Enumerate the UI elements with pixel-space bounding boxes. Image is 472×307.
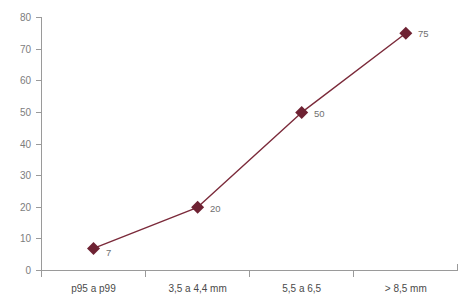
y-tick-label-60: 60: [20, 75, 32, 86]
y-tick-label-0: 0: [25, 265, 31, 276]
x-category-label-2: 5,5 a 6,5: [282, 283, 321, 294]
y-axis: 80 70 60 50 40 30 20 10 0: [20, 12, 42, 276]
data-point-label-3: 75: [418, 28, 429, 39]
y-tick-label-30: 30: [20, 170, 32, 181]
y-tick-label-70: 70: [20, 44, 32, 55]
y-tick-label-40: 40: [20, 139, 32, 150]
data-point-label-0: 7: [106, 247, 111, 258]
y-tick-label-50: 50: [20, 107, 32, 118]
data-series: 7 20 50 75: [87, 27, 429, 258]
y-tick-label-10: 10: [20, 233, 32, 244]
x-category-label-1: 3,5 a 4,4 mm: [168, 283, 226, 294]
chart-canvas: 80 70 60 50 40 30 20 10 0 p95 a p99 3,5 …: [0, 0, 472, 307]
series-line-path: [94, 33, 406, 248]
x-axis: p95 a p99 3,5 a 4,4 mm 5,5 a 6,5 > 8,5 m…: [42, 264, 459, 294]
x-category-label-0: p95 a p99: [71, 283, 116, 294]
data-point-label-2: 50: [314, 108, 325, 119]
data-point-marker-3[interactable]: [399, 27, 412, 40]
x-category-label-3: > 8,5 mm: [385, 283, 427, 294]
data-point-label-1: 20: [210, 203, 221, 214]
y-tick-label-20: 20: [20, 202, 32, 213]
line-chart: 80 70 60 50 40 30 20 10 0 p95 a p99 3,5 …: [0, 0, 472, 307]
data-point-marker-0[interactable]: [87, 242, 100, 255]
y-tick-label-80: 80: [20, 12, 32, 23]
